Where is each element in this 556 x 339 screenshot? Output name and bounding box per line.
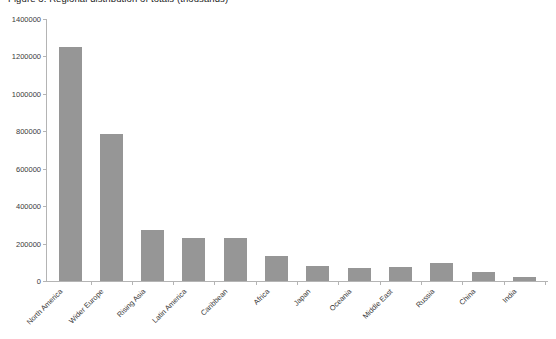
x-label-caribbean: Caribbean	[199, 287, 229, 317]
bar[interactable]	[182, 238, 205, 281]
bar[interactable]	[265, 256, 288, 281]
y-tick-label: 1200000	[12, 52, 46, 61]
x-label-oceania: Oceania	[328, 287, 354, 313]
bar[interactable]	[224, 238, 247, 281]
x-label-russia: Russia	[414, 287, 436, 309]
x-label-middle-east: Middle East	[361, 287, 395, 321]
x-label-japan: Japan	[292, 287, 313, 308]
x-label-rising-asia: Rising Asia	[115, 287, 147, 319]
y-tick-label: 1000000	[12, 89, 46, 98]
x-tickmark	[256, 282, 257, 285]
bar[interactable]	[513, 277, 536, 281]
x-label-china: China	[457, 287, 477, 307]
bar[interactable]	[389, 267, 412, 281]
plot-area	[46, 19, 548, 281]
y-tickmark	[43, 131, 46, 132]
x-label-africa: Africa	[251, 287, 271, 307]
y-tickmark	[43, 281, 46, 282]
bar[interactable]	[59, 47, 82, 281]
x-tickmark	[462, 282, 463, 285]
y-tickmark	[43, 94, 46, 95]
y-tick-label: 600000	[16, 164, 46, 173]
bar[interactable]	[100, 134, 123, 281]
y-tickmark	[43, 169, 46, 170]
x-tickmark	[173, 282, 174, 285]
bar[interactable]	[348, 268, 371, 281]
y-tick-label: 800000	[16, 127, 46, 136]
x-label-india: India	[501, 287, 519, 305]
bar[interactable]	[472, 272, 495, 281]
x-tickmark	[132, 282, 133, 285]
x-label-wider-europe: Wider Europe	[67, 287, 105, 325]
bar[interactable]	[306, 266, 329, 281]
x-tickmark	[297, 282, 298, 285]
x-tickmark	[380, 282, 381, 285]
x-tickmark	[214, 282, 215, 285]
x-tickmark	[504, 282, 505, 285]
x-tickmark	[545, 282, 546, 285]
x-tickmark	[338, 282, 339, 285]
y-axis-tick-labels: 0200000400000600000800000100000012000001…	[0, 0, 46, 339]
bar-chart: Figure 3: Regional distribution of total…	[0, 0, 556, 339]
y-tickmark	[43, 206, 46, 207]
y-tickmark	[43, 56, 46, 57]
y-tick-label: 400000	[16, 202, 46, 211]
x-tickmark	[421, 282, 422, 285]
bar[interactable]	[141, 230, 164, 281]
y-tick-label: 200000	[16, 239, 46, 248]
y-tick-label: 1400000	[12, 15, 46, 24]
y-tickmark	[43, 19, 46, 20]
y-tickmark	[43, 244, 46, 245]
bar[interactable]	[430, 263, 453, 281]
x-label-latin-america: Latin America	[150, 287, 188, 325]
x-tickmark	[91, 282, 92, 285]
